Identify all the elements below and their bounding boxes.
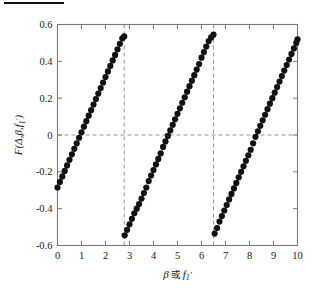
data-point xyxy=(146,178,152,184)
x-tick-label: 0 xyxy=(55,250,60,261)
data-point xyxy=(93,96,99,102)
data-point xyxy=(153,161,159,167)
data-point xyxy=(288,51,294,57)
data-point xyxy=(210,32,216,38)
data-point xyxy=(138,195,144,201)
y-tick-label: 0 xyxy=(47,130,52,141)
data-point xyxy=(240,163,246,169)
data-point xyxy=(228,191,234,197)
data-point xyxy=(90,102,96,108)
data-point xyxy=(88,107,94,113)
data-point xyxy=(98,85,104,91)
data-point xyxy=(143,184,149,190)
data-point xyxy=(238,169,244,175)
data-point xyxy=(129,216,135,222)
data-point xyxy=(117,41,123,47)
data-point xyxy=(291,45,297,51)
series-branch-1 xyxy=(54,33,127,190)
data-point xyxy=(196,61,202,67)
data-point xyxy=(83,118,89,124)
x-tick-label: 9 xyxy=(271,250,276,261)
data-point xyxy=(262,112,268,118)
data-point xyxy=(124,227,130,233)
data-point xyxy=(279,73,285,79)
data-point xyxy=(112,52,118,58)
data-point xyxy=(276,78,282,84)
y-tick-label: 0.2 xyxy=(39,93,52,104)
data-point xyxy=(95,90,101,96)
data-point xyxy=(105,68,111,74)
chart-canvas: 0123456789100.60.40.20-0.2-0.4-0.6 β或f1′… xyxy=(0,0,324,291)
data-point xyxy=(141,190,147,196)
y-tick-label: 0.4 xyxy=(39,56,53,67)
data-point xyxy=(264,106,270,112)
data-point xyxy=(57,179,63,185)
data-point xyxy=(54,184,60,190)
data-point xyxy=(191,72,197,78)
data-point xyxy=(122,232,128,238)
data-point xyxy=(267,101,273,107)
data-point xyxy=(69,151,75,157)
data-point xyxy=(182,94,188,100)
data-point xyxy=(203,44,209,50)
x-tick-label: 1 xyxy=(79,250,84,261)
data-point xyxy=(78,129,84,135)
figure-container: 0123456789100.60.40.20-0.2-0.4-0.6 β或f1′… xyxy=(0,0,324,291)
data-point xyxy=(179,100,185,106)
data-point xyxy=(184,89,190,95)
data-point xyxy=(231,185,237,191)
data-point xyxy=(81,124,87,130)
data-point xyxy=(160,144,166,150)
x-tick-label: 4 xyxy=(151,250,157,261)
data-point xyxy=(201,49,207,55)
data-point xyxy=(170,122,176,128)
data-point xyxy=(216,218,222,224)
x-tick-label: 7 xyxy=(223,250,228,261)
data-point xyxy=(214,225,220,231)
data-point xyxy=(281,67,287,73)
y-tick-label: -0.6 xyxy=(36,240,53,251)
tick-labels-layer: 0123456789100.60.40.20-0.2-0.4-0.6 xyxy=(36,19,303,260)
x-axis-title: β或f1′ xyxy=(162,268,192,283)
data-point xyxy=(121,33,127,39)
data-point xyxy=(167,127,173,133)
data-point xyxy=(148,172,154,178)
data-point xyxy=(250,140,256,146)
data-point xyxy=(233,180,239,186)
data-point xyxy=(212,230,218,236)
data-point xyxy=(162,138,168,144)
data-point xyxy=(165,133,171,139)
data-point xyxy=(255,128,261,134)
y-axis-title: F(Δ,β,f1′) xyxy=(12,115,27,157)
data-point xyxy=(76,135,82,141)
data-point xyxy=(150,167,156,173)
data-point xyxy=(189,78,195,84)
x-tick-label: 10 xyxy=(292,250,303,261)
x-tick-label: 8 xyxy=(247,250,252,261)
data-point xyxy=(100,79,106,85)
y-tick-label: -0.2 xyxy=(36,166,53,177)
y-tick-label: 0.6 xyxy=(39,19,52,30)
data-point xyxy=(294,36,300,42)
data-point xyxy=(177,105,183,111)
data-point xyxy=(284,62,290,68)
data-point xyxy=(219,213,225,219)
data-point xyxy=(158,150,164,156)
data-point xyxy=(107,63,113,69)
data-point xyxy=(257,123,263,129)
data-point xyxy=(245,152,251,158)
data-point xyxy=(62,168,68,174)
data-point xyxy=(110,57,116,63)
data-point xyxy=(272,90,278,96)
data-point xyxy=(74,140,80,146)
data-point xyxy=(226,196,232,202)
data-point xyxy=(155,156,161,162)
data-point xyxy=(274,84,280,90)
x-tick-label: 6 xyxy=(199,250,204,261)
data-point xyxy=(102,74,108,80)
data-point xyxy=(248,147,254,153)
top-rule-decoration xyxy=(4,2,64,4)
data-point xyxy=(269,95,275,101)
x-tick-label: 3 xyxy=(127,250,132,261)
data-point xyxy=(126,221,132,227)
